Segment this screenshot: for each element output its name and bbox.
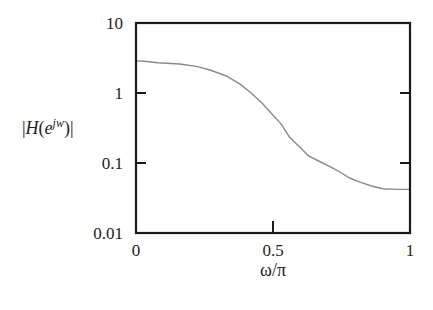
x-tick-label: 0 [132,241,141,260]
y-axis-label: |H(ejw)| [22,116,74,139]
y-tick-labels: 0.010.1110 [93,14,123,243]
x-tick-label: 1 [406,241,415,260]
magnitude-response-line [136,61,410,190]
y-tick-label: 10 [106,14,123,33]
y-tick-label: 0.1 [102,154,123,173]
x-axis-label: ω/π [260,260,286,280]
plot-frame [136,23,410,233]
x-tick-label: 0.5 [262,241,283,260]
y-tick-label: 0.01 [93,224,123,243]
y-tick-label: 1 [115,84,124,103]
x-tick-labels: 00.51 [132,241,415,260]
axis-ticks [136,93,410,233]
chart: 0.010.1110 00.51 |H(ejw)| ω/π [0,0,433,310]
